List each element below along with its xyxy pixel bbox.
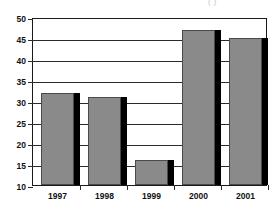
x-axis-label-2000: 2000	[189, 192, 208, 201]
x-axis-tick	[127, 185, 128, 190]
y-axis-tick	[28, 187, 33, 188]
bar-1997[interactable]	[41, 93, 74, 185]
bar-chart: ( ) 504540353025201510199719981999200020…	[0, 0, 277, 218]
bar-shadow	[261, 38, 268, 185]
x-axis-tick	[268, 185, 269, 190]
x-axis-label-1997: 1997	[48, 192, 67, 201]
bar-1999[interactable]	[135, 160, 168, 185]
bar-group	[127, 19, 174, 185]
y-axis-label: 10	[17, 183, 26, 192]
plot-area: 50454035302520151019971998199920002001	[32, 18, 267, 186]
bar-shadow	[167, 160, 174, 185]
y-axis-label: 15	[17, 162, 26, 171]
bar-group	[33, 19, 80, 185]
x-axis-tick	[221, 185, 222, 190]
x-axis-label-2001: 2001	[236, 192, 255, 201]
x-axis-label-1999: 1999	[142, 192, 161, 201]
x-axis-tick	[174, 185, 175, 190]
bar-group	[174, 19, 221, 185]
y-axis-label: 35	[17, 78, 26, 87]
y-axis-label: 20	[17, 141, 26, 150]
y-axis-label: 30	[17, 99, 26, 108]
y-axis-label: 40	[17, 57, 26, 66]
bar-shadow	[120, 97, 127, 185]
x-axis-tick	[80, 185, 81, 190]
bar-group	[221, 19, 268, 185]
bar-1998[interactable]	[88, 97, 121, 185]
bar-2000[interactable]	[182, 30, 215, 185]
x-axis-label-1998: 1998	[95, 192, 114, 201]
chart-title: ( )	[150, 0, 275, 8]
y-axis-label: 25	[17, 120, 26, 129]
bar-shadow	[73, 93, 80, 185]
bar-shadow	[214, 30, 221, 185]
bar-group	[80, 19, 127, 185]
y-axis-label: 45	[17, 36, 26, 45]
bar-2001[interactable]	[229, 38, 262, 185]
plot-inner: 50454035302520151019971998199920002001	[33, 19, 266, 185]
y-axis-label: 50	[17, 15, 26, 24]
